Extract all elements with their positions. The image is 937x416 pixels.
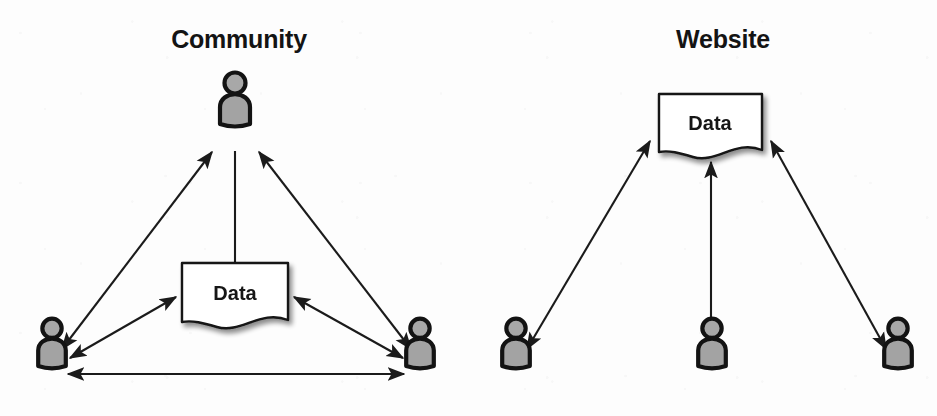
- document-node-website: Data: [659, 94, 762, 158]
- diagram-canvas: DataData CommunityWebsite: [0, 0, 937, 416]
- actor-layer: [38, 73, 912, 369]
- connector-c-right-to-doc: [294, 297, 403, 358]
- document-layer: DataData: [182, 94, 762, 328]
- document-label-website: Data: [688, 112, 732, 134]
- document-node-community: Data: [182, 263, 288, 328]
- connector-layer: [62, 141, 886, 374]
- document-label-community: Data: [213, 282, 257, 304]
- person-icon-website-person-center: [698, 319, 726, 369]
- person-icon-community-person-top: [220, 73, 250, 127]
- panel-title-website: Website: [676, 25, 770, 53]
- title-layer: CommunityWebsite: [171, 25, 770, 53]
- connector-c-left-to-doc: [70, 297, 176, 358]
- connector-w-right-to-doc: [771, 141, 886, 349]
- person-icon-community-person-bottom-left: [38, 319, 66, 369]
- person-icon-community-person-bottom-right: [406, 319, 434, 369]
- person-icon-website-person-left: [502, 319, 530, 369]
- diagram-svg: DataData CommunityWebsite: [0, 0, 937, 416]
- person-icon-website-person-right: [884, 319, 912, 369]
- panel-title-community: Community: [171, 25, 307, 53]
- connector-w-left-to-doc: [527, 141, 650, 349]
